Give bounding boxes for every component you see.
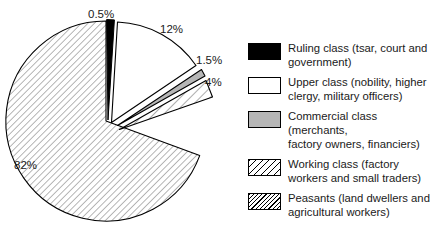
solid-black-swatch-icon: [248, 43, 281, 60]
legend-line-2: clergy, military officers): [288, 90, 402, 102]
legend-line-1: Ruling class (tsar, court and: [288, 42, 427, 54]
pie-label-commercial-class: 1.5%: [196, 54, 222, 66]
pie-label-working-class: 4%: [205, 76, 222, 88]
legend-item-peasants: Peasants (land dwellers and agricultural…: [248, 192, 438, 219]
pie-label-peasants: 82%: [14, 159, 37, 171]
white-swatch-icon: [248, 77, 281, 94]
wide-hatch-swatch-icon: [248, 159, 281, 176]
pie-chart-figure: 0.5% 12% 1.5% 4% 82% Ruling class (tsar,…: [0, 0, 440, 229]
legend-line-1: Working class (factory: [288, 158, 399, 170]
legend: Ruling class (tsar, court and government…: [248, 42, 438, 227]
legend-item-working-class: Working class (factory workers and small…: [248, 158, 438, 185]
legend-item-upper-class: Upper class (nobility, higher clergy, mi…: [248, 76, 438, 103]
pie-label-upper-class: 12%: [160, 23, 183, 35]
legend-line-1: Upper class (nobility, higher: [288, 76, 427, 88]
legend-item-commercial-class: Commercial class (merchants, factory own…: [248, 110, 438, 151]
gray-swatch-icon: [248, 111, 281, 128]
legend-line-2: factory owners, financiers): [288, 138, 420, 150]
legend-line-2: workers and small traders): [288, 172, 421, 184]
legend-label-ruling-class: Ruling class (tsar, court and government…: [288, 42, 427, 69]
pie-chart-svg: [0, 0, 240, 229]
legend-label-commercial-class: Commercial class (merchants, factory own…: [288, 110, 438, 151]
legend-item-ruling-class: Ruling class (tsar, court and government…: [248, 42, 438, 69]
legend-label-working-class: Working class (factory workers and small…: [288, 158, 421, 185]
legend-line-1: Peasants (land dwellers and: [288, 192, 430, 204]
dense-hatch-swatch-icon: [248, 193, 281, 210]
pie-label-ruling-class: 0.5%: [88, 8, 114, 20]
pie-chart-area: 0.5% 12% 1.5% 4% 82%: [0, 0, 240, 229]
legend-line-2: government): [288, 56, 351, 68]
legend-label-peasants: Peasants (land dwellers and agricultural…: [288, 192, 430, 219]
legend-label-upper-class: Upper class (nobility, higher clergy, mi…: [288, 76, 427, 103]
legend-line-1: Commercial class (merchants,: [288, 110, 377, 136]
legend-line-2: agricultural workers): [288, 206, 390, 218]
